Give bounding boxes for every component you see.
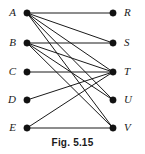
graph-vertex-u	[110, 97, 116, 103]
graph-vertex-d	[24, 97, 30, 103]
graph-vertex-s	[110, 40, 116, 46]
graph-edge-d-t	[27, 72, 113, 100]
graph-edge-a-s	[27, 13, 113, 43]
graph-edge-a-v	[27, 13, 113, 128]
vertex-label-a: A	[8, 6, 16, 18]
vertex-label-t: T	[124, 65, 131, 77]
vertex-label-c: C	[9, 65, 17, 77]
graph-edge-a-u	[27, 13, 113, 100]
bipartite-graph: ABCDERSTUV	[0, 0, 145, 136]
figure-caption: Fig. 5.15	[0, 136, 145, 150]
graph-edge-e-t	[27, 72, 113, 128]
vertex-label-s: S	[124, 36, 130, 48]
vertex-label-d: D	[7, 93, 16, 105]
graph-vertex-b	[24, 40, 30, 46]
vertex-label-r: R	[123, 6, 131, 18]
graph-vertex-e	[24, 125, 30, 131]
vertex-label-v: V	[124, 121, 132, 133]
graph-vertex-t	[110, 69, 116, 75]
graph-vertex-v	[110, 125, 116, 131]
graph-edge-b-t	[27, 43, 113, 72]
edge-group	[27, 13, 113, 128]
vertex-label-b: B	[9, 36, 16, 48]
vertex-label-e: E	[8, 121, 16, 133]
vertex-label-u: U	[124, 93, 133, 105]
graph-vertex-c	[24, 69, 30, 75]
figure-container: ABCDERSTUV Fig. 5.15	[0, 0, 145, 154]
graph-vertex-r	[110, 10, 116, 16]
graph-vertex-a	[24, 10, 30, 16]
